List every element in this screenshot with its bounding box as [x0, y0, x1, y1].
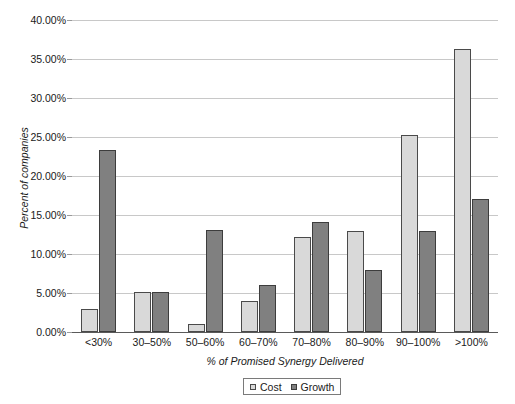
legend-item-cost[interactable]: Cost: [250, 381, 282, 393]
y-axis-tick-labels: 0.00%5.00%10.00%15.00%20.00%25.00%30.00%…: [8, 0, 66, 404]
bar-cost-7[interactable]: [401, 135, 418, 332]
x-axis-tick-label: 90–100%: [396, 336, 440, 348]
bar-cost-5[interactable]: [294, 237, 311, 332]
bar-growth-8[interactable]: [472, 199, 489, 332]
y-axis-tick-label: 15.00%: [12, 209, 66, 221]
x-axis-tick-labels: <30%30–50%50–60%60–70%70–80%80–90%90–100…: [72, 336, 498, 352]
bar-growth-4[interactable]: [259, 285, 276, 332]
bar-cost-4[interactable]: [241, 301, 258, 332]
y-axis-tick-label: 0.00%: [12, 326, 66, 338]
legend-item-growth[interactable]: Growth: [291, 381, 335, 393]
bar-group: [445, 0, 498, 332]
bar-growth-2[interactable]: [152, 292, 169, 332]
legend-label: Growth: [301, 381, 335, 393]
bar-group: [125, 0, 178, 332]
bar-group: [338, 0, 391, 332]
y-axis-tick-label: 20.00%: [12, 170, 66, 182]
x-axis-tick-label: >100%: [455, 336, 488, 348]
legend-label: Cost: [260, 381, 282, 393]
x-axis-line: [72, 332, 498, 333]
bar-group: [179, 0, 232, 332]
x-axis-tick-label: 80–90%: [346, 336, 385, 348]
legend-swatch-cost-icon: [250, 384, 256, 390]
bar-group: [285, 0, 338, 332]
x-axis-tick-label: 30–50%: [133, 336, 172, 348]
bar-cost-1[interactable]: [81, 309, 98, 332]
y-axis-tick-label: 35.00%: [12, 53, 66, 65]
x-axis-tick-label: <30%: [85, 336, 112, 348]
x-axis-title: % of Promised Synergy Delivered: [72, 355, 498, 367]
y-axis-tick-label: 5.00%: [12, 287, 66, 299]
bar-group: [72, 0, 125, 332]
y-axis-tick-label: 30.00%: [12, 92, 66, 104]
x-axis-tick-label: 50–60%: [186, 336, 225, 348]
bar-group: [232, 0, 285, 332]
bar-growth-1[interactable]: [99, 150, 116, 332]
legend-swatch-growth-icon: [291, 384, 297, 390]
y-axis-tick-label: 10.00%: [12, 248, 66, 260]
chart-legend: CostGrowth: [243, 378, 341, 395]
bar-cost-8[interactable]: [454, 49, 471, 332]
bar-growth-3[interactable]: [206, 230, 223, 332]
y-axis-tick-label: 25.00%: [12, 131, 66, 143]
bar-growth-5[interactable]: [312, 222, 329, 332]
bar-growth-6[interactable]: [365, 270, 382, 332]
bar-group: [392, 0, 445, 332]
x-axis-tick-label: 70–80%: [292, 336, 331, 348]
bar-growth-7[interactable]: [419, 231, 436, 332]
bars-layer: [72, 0, 498, 332]
bar-cost-3[interactable]: [188, 324, 205, 332]
bar-cost-6[interactable]: [347, 231, 364, 332]
bar-cost-2[interactable]: [134, 292, 151, 332]
x-axis-tick-label: 60–70%: [239, 336, 278, 348]
bar-chart: Percent of companies 0.00%5.00%10.00%15.…: [0, 0, 515, 404]
y-axis-tick-label: 40.00%: [12, 14, 66, 26]
